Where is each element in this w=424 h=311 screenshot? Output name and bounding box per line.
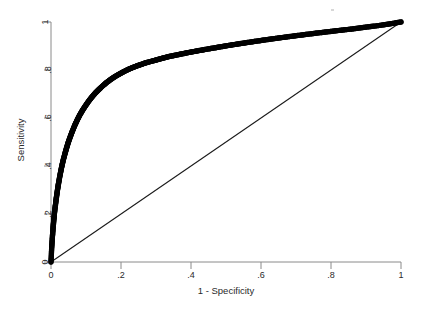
xtick-label-0: 0 [48, 270, 53, 280]
ytick-label-1: .2 [43, 210, 53, 218]
xtick-label-3: .6 [257, 270, 265, 280]
roc-plot-svg [0, 0, 424, 311]
x-axis-title: 1 - Specificity [198, 285, 255, 296]
ytick-label-3: .6 [43, 114, 53, 122]
xtick-label-1: .2 [117, 270, 125, 280]
xtick-label-4: .8 [327, 270, 335, 280]
roc-curve-figure: 0 .2 .4 .6 .8 1 0 .2 .4 .6 .8 1 1 - Spec… [0, 0, 424, 311]
y-axis-title: Sensitivity [15, 119, 26, 162]
ytick-label-5: 1 [40, 19, 50, 24]
scan-artifact-speck [331, 9, 334, 11]
ytick-label-2: .4 [43, 162, 53, 170]
ytick-label-4: .8 [43, 66, 53, 74]
xtick-label-2: .4 [187, 270, 195, 280]
ytick-label-0: 0 [40, 259, 50, 264]
xtick-label-5: 1 [398, 270, 403, 280]
